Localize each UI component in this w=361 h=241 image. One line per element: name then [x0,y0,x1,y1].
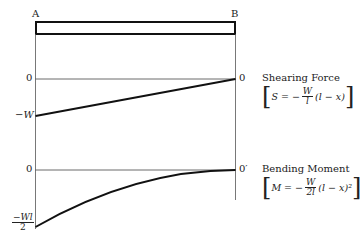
moment-formula-lhs: M = − [271,182,303,193]
moment-zero-left-label: 0 [26,164,32,174]
beam [36,22,235,34]
moment-formula-numerator: W [305,178,316,188]
moment-zero-right-label: 0′ [239,164,248,174]
shear-min-label: −W [15,110,34,120]
shear-formula-numerator: W [302,87,313,97]
moment-title: Bending Moment [262,163,349,174]
shear-title: Shearing Force [262,72,340,83]
beam-end-a-label: A [32,9,39,19]
bending-moment-curve [36,170,236,227]
moment-formula-rhs: (l − x)² [318,182,352,193]
shear-force-line [36,79,236,116]
shear-formula-lhs: S = − [271,91,299,102]
shear-formula-rhs: (l − x) [315,91,345,102]
shear-formula-denominator: l [306,97,309,106]
shear-zero-right-label: 0 [239,73,245,83]
moment-min-label: −Wl 2 [12,213,34,232]
shear-zero-left-label: 0 [26,73,32,83]
moment-formula: [ M = − W 2l (l − x)² ] [262,175,361,199]
moment-formula-denominator: 2l [306,188,315,197]
beam-end-b-label: B [231,9,238,19]
shear-formula: [ S = − W l (l − x) ] [262,84,354,108]
